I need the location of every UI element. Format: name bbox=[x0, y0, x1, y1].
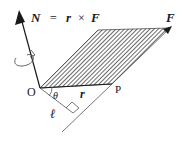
torque-diagram: N = r × F F O P r θ ℓ bbox=[0, 0, 186, 142]
origin-label: O bbox=[27, 85, 36, 99]
r-label: r bbox=[80, 87, 85, 101]
equation-equals: = bbox=[50, 11, 57, 25]
equation-F: F bbox=[90, 10, 100, 25]
torque-vector-line bbox=[21, 18, 40, 88]
point-P-label: P bbox=[115, 83, 121, 95]
equation-r: r bbox=[66, 10, 72, 25]
lever-arm-label: ℓ bbox=[50, 106, 56, 121]
equation-times: × bbox=[78, 11, 85, 25]
hatched-parallelogram bbox=[40, 28, 170, 88]
theta-label: θ bbox=[53, 90, 58, 101]
right-angle-marker bbox=[66, 102, 79, 113]
equation-N: N bbox=[30, 10, 41, 25]
theta-arc bbox=[49, 87, 52, 96]
force-line-of-action bbox=[62, 84, 112, 132]
force-label: F bbox=[165, 10, 175, 25]
torque-arrowhead-icon bbox=[15, 10, 25, 25]
rotation-arrow-icon bbox=[15, 54, 34, 66]
